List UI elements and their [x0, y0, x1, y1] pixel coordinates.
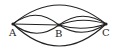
node-label-c: C	[102, 28, 110, 38]
node-label-a: A	[9, 28, 16, 38]
node-b	[57, 23, 60, 26]
graph-edges	[0, 0, 117, 54]
graph-diagram: A B C	[0, 0, 117, 54]
node-a	[11, 22, 14, 25]
edge-a-b-upper	[13, 15, 59, 25]
edge-a-b-straight	[13, 24, 59, 25]
node-c	[104, 22, 107, 25]
node-label-b: B	[55, 29, 62, 39]
